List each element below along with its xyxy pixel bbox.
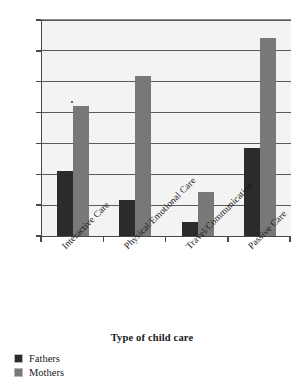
legend-label: Mothers — [29, 367, 64, 378]
legend-item: Mothers — [14, 365, 64, 379]
x-axis-separator-tick — [40, 237, 42, 242]
x-axis-separator-tick — [165, 237, 167, 242]
y-axis: 00.511.522.533.5 — [0, 0, 304, 382]
y-axis-tick-mark — [36, 19, 41, 21]
legend-swatch-mothers — [14, 368, 23, 377]
y-axis-tick-mark — [36, 81, 41, 83]
chart-legend: FathersMothers — [14, 351, 64, 379]
x-axis-separator-tick — [227, 237, 229, 242]
legend-label: Fathers — [29, 353, 60, 364]
y-axis-tick-mark — [36, 174, 41, 176]
y-axis-tick-mark — [36, 143, 41, 145]
y-axis-tick-mark — [36, 50, 41, 52]
x-axis-title: Type of child care — [0, 332, 304, 343]
legend-item: Fathers — [14, 351, 64, 365]
legend-swatch-fathers — [14, 354, 23, 363]
y-axis-tick-mark — [36, 112, 41, 114]
x-axis-separator-tick — [289, 237, 291, 242]
y-axis-tick-mark — [36, 204, 41, 206]
x-axis-separator-tick — [103, 237, 105, 242]
bar-chart-figure: 00.511.522.533.5 Interactive CarePhysica… — [0, 0, 304, 382]
